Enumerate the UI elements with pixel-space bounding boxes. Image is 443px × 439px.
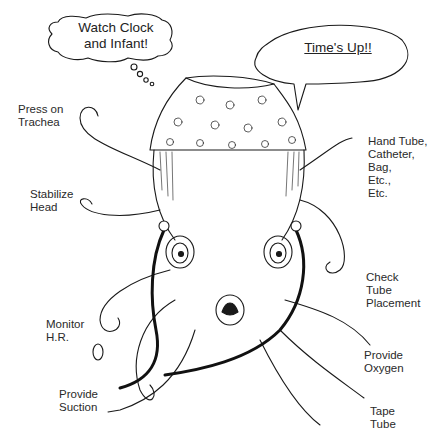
- label-tape-tube: Tape Tube: [370, 405, 396, 431]
- octopus-illustration: Watch Clock and Infant! Time's Up!! Pres…: [0, 0, 443, 439]
- label-provide-oxygen: Provide Oxygen: [364, 349, 404, 375]
- thought-bubble-text: Watch Clock and Infant!: [70, 20, 162, 52]
- speech-bubble-text: Time's Up!!: [290, 40, 386, 56]
- label-monitor-hr: Monitor H.R.: [46, 318, 84, 344]
- label-hand-tube: Hand Tube, Catheter, Bag, Etc., Etc.: [368, 135, 427, 200]
- label-press-trachea: Press on Trachea: [18, 103, 63, 129]
- label-stabilize-head: Stabilize Head: [30, 188, 73, 214]
- label-check-tube: Check Tube Placement: [366, 271, 420, 310]
- label-provide-suction: Provide Suction: [59, 388, 98, 414]
- speech-bubble: [255, 25, 408, 110]
